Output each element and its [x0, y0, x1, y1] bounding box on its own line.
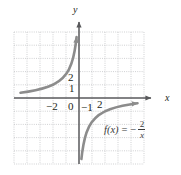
- equation-equals-sign: =: [121, 125, 129, 136]
- x-tick-label-neg1: −1: [81, 102, 93, 113]
- x-tick-label-2: 2: [97, 99, 103, 110]
- equation-numerator: 2: [139, 120, 146, 130]
- equation-denominator: x: [139, 130, 145, 140]
- axis-lines: [14, 22, 151, 164]
- y-tick-label-1: 1: [69, 83, 75, 94]
- equation-function-name: f(x): [104, 125, 119, 136]
- equation-minus-sign: −: [131, 125, 137, 136]
- x-tick-label-neg2: −2: [46, 101, 58, 112]
- origin-label: 0: [68, 101, 74, 112]
- x-axis-label: x: [165, 93, 169, 103]
- function-equation-annotation: f(x) = − 2 x: [104, 120, 145, 140]
- graph-figure: y x 2 1 0 −2 −1 2 f(x) = − 2 x: [0, 0, 181, 175]
- y-axis-label: y: [73, 5, 77, 15]
- coordinate-plane-svg: [0, 0, 181, 175]
- equation-fraction: 2 x: [138, 120, 145, 140]
